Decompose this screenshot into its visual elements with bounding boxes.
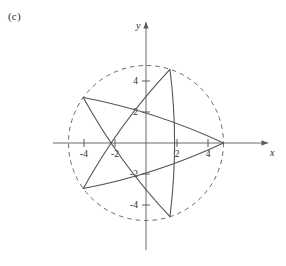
polar-plot-figure: -4-224-4-224 x y bbox=[0, 0, 286, 266]
y-tick-label: 4 bbox=[133, 76, 138, 86]
axes bbox=[53, 22, 268, 250]
x-axis-arrow bbox=[262, 140, 269, 145]
x-tick-label: 2 bbox=[175, 149, 180, 159]
y-axis-arrow bbox=[143, 22, 148, 29]
x-tick-label: -2 bbox=[111, 149, 119, 159]
x-tick-label: -4 bbox=[80, 149, 88, 159]
y-tick-label: -4 bbox=[130, 200, 138, 210]
y-axis-label: y bbox=[135, 20, 141, 31]
x-axis-label: x bbox=[269, 147, 275, 158]
